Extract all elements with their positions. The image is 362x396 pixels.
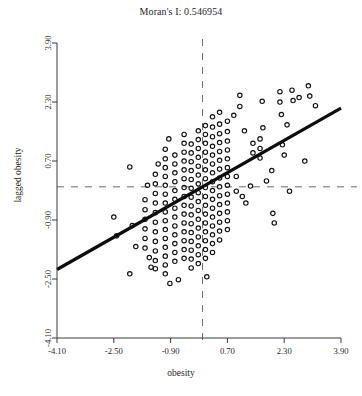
scatter-point [163, 147, 167, 151]
scatter-point [147, 255, 151, 259]
scatter-point [217, 132, 221, 136]
scatter-point [176, 278, 180, 282]
scatter-point [210, 215, 214, 219]
scatter-point [242, 129, 246, 133]
scatter-point [234, 189, 238, 193]
x-tick-label: 3.90 [333, 346, 348, 356]
scatter-point [278, 100, 282, 104]
scatter-point [182, 159, 186, 163]
scatter-point [163, 227, 167, 231]
scatter-point [217, 122, 221, 126]
scatter-point [153, 220, 157, 224]
x-tick-label: -2.50 [105, 346, 123, 356]
scatter-point [248, 184, 252, 188]
scatter-point [153, 201, 157, 205]
scatter-point [196, 252, 200, 256]
scatter-point [173, 162, 177, 166]
y-tick-label: -0.90 [43, 211, 53, 229]
scatter-point [196, 235, 200, 239]
scatter-point [173, 188, 177, 192]
scatter-point [189, 257, 193, 261]
scatter-point [217, 140, 221, 144]
scatter-point [217, 110, 221, 114]
scatter-point [225, 157, 229, 161]
scatter-point [210, 171, 214, 175]
scatter-point [203, 177, 207, 181]
scatter-point [182, 212, 186, 216]
y-tick-label: 0.70 [43, 153, 53, 168]
scatter-point [225, 139, 229, 143]
scatter-point [153, 172, 157, 176]
scatter-point [203, 159, 207, 163]
scatter-point [196, 244, 200, 248]
scatter-point [205, 275, 209, 279]
scatter-point [189, 186, 193, 190]
scatter-point [163, 165, 167, 169]
scatter-point [225, 227, 229, 231]
scatter-point [217, 158, 221, 162]
y-axis-ticks: -4.10-2.50-0.900.702.303.90 [43, 35, 57, 346]
scatter-point [163, 254, 167, 258]
scatter-point [134, 244, 138, 248]
scatter-point [189, 177, 193, 181]
scatter-point [128, 165, 132, 169]
scatter-point [264, 179, 268, 183]
scatter-point [189, 168, 193, 172]
scatter-point [258, 146, 262, 150]
scatter-point [272, 221, 276, 225]
scatter-point [196, 146, 200, 150]
scatter-point [260, 99, 264, 103]
scatter-point [173, 259, 177, 263]
scatter-point [203, 168, 207, 172]
scatter-point [163, 174, 167, 178]
scatter-point [189, 248, 193, 252]
scatter-point [163, 236, 167, 240]
scatter-point [143, 198, 147, 202]
scatter-point [203, 256, 207, 260]
scatter-point [196, 261, 200, 265]
scatter-point [182, 247, 186, 251]
scatter-point [203, 247, 207, 251]
scatter-point [128, 272, 132, 276]
scatter-point [225, 219, 229, 223]
scatter-point [271, 211, 275, 215]
scatter-point [217, 193, 221, 197]
scatter-point [279, 112, 283, 116]
scatter-point [189, 239, 193, 243]
scatter-point [196, 208, 200, 212]
scatter-point [182, 256, 186, 260]
scatter-point [210, 250, 214, 254]
scatter-point [182, 150, 186, 154]
scatter-point [182, 238, 186, 242]
y-axis-label: lagged obesity [13, 135, 23, 215]
scatter-point [225, 192, 229, 196]
scatter-point [238, 104, 242, 108]
scatter-point [217, 149, 221, 153]
scatter-point [173, 224, 177, 228]
scatter-point [163, 245, 167, 249]
scatter-point [153, 182, 157, 186]
scatter-point [196, 226, 200, 230]
scatter-point [232, 113, 236, 117]
scatter-point [285, 123, 289, 127]
scatter-point [189, 213, 193, 217]
x-tick-label: 2.30 [277, 346, 292, 356]
scatter-point [282, 153, 286, 157]
scatter-point [210, 241, 214, 245]
scatter-point [217, 211, 221, 215]
scatter-point [210, 144, 214, 148]
scatter-point [238, 93, 242, 97]
scatter-point [173, 206, 177, 210]
scatter-point [163, 219, 167, 223]
scatter-point [234, 174, 238, 178]
scatter-point [261, 126, 265, 130]
scatter-point [167, 137, 171, 141]
scatter-point [203, 123, 207, 127]
scatter-point [217, 238, 221, 242]
x-axis-ticks: -4.10-2.50-0.900.702.303.90 [48, 338, 348, 356]
scatter-point [173, 241, 177, 245]
scatter-point [240, 194, 244, 198]
scatter-point [182, 177, 186, 181]
scatter-point [189, 142, 193, 146]
scatter-point [225, 210, 229, 214]
